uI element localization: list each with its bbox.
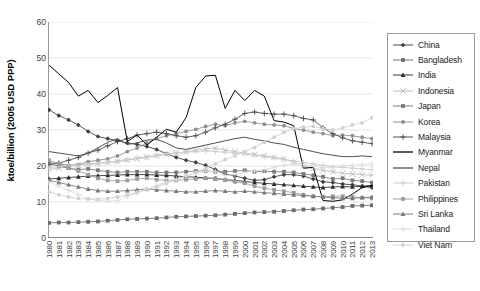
legend-swatch-icon: [392, 38, 414, 52]
y-axis-tick-60: 60: [20, 17, 46, 27]
x-axis-tick-1986: 1986: [104, 241, 113, 258]
x-axis-tick-1995: 1995: [192, 241, 201, 258]
legend-item-label: Korea: [418, 117, 440, 127]
x-axis-tick-2013: 2013: [368, 241, 377, 258]
legend-item-nepal[interactable]: Nepal: [388, 160, 474, 175]
x-axis-tick-1996: 1996: [202, 241, 211, 258]
legend-item-viet-nam[interactable]: Viet Nam: [388, 237, 474, 252]
x-axis-tick-2000: 2000: [241, 241, 250, 258]
x-axis-tick-1983: 1983: [74, 241, 83, 258]
x-axis-tick-1984: 1984: [84, 241, 93, 258]
x-axis-tick-2005: 2005: [290, 241, 299, 258]
legend-swatch-icon: [392, 84, 414, 98]
legend-item-japan[interactable]: Japan: [388, 99, 474, 114]
legend-item-korea[interactable]: Korea: [388, 114, 474, 129]
x-axis-tick-1987: 1987: [114, 241, 123, 258]
legend-item-label: China: [418, 40, 440, 50]
x-axis-tick-2010: 2010: [339, 241, 348, 258]
plot-area: [48, 22, 373, 238]
legend-swatch-icon: [392, 192, 414, 206]
legend-item-label: Thailand: [418, 224, 450, 234]
x-axis-tick-1993: 1993: [172, 241, 181, 258]
x-axis-tick-1981: 1981: [55, 241, 64, 258]
x-axis-tick-2004: 2004: [280, 241, 289, 258]
x-axis-tick-labels: 1980198119821983198419851986198719881989…: [48, 241, 373, 289]
x-axis-tick-2006: 2006: [299, 241, 308, 258]
x-axis-tick-2012: 2012: [358, 241, 367, 258]
legend-swatch-icon: [392, 238, 414, 252]
x-axis-tick-1989: 1989: [133, 241, 142, 258]
series-malaysia: [48, 109, 373, 167]
x-axis-tick-1999: 1999: [231, 241, 240, 258]
x-axis-tick-1997: 1997: [211, 241, 220, 258]
legend-swatch-icon: [392, 145, 414, 159]
legend-item-malaysia[interactable]: Malaysia: [388, 129, 474, 144]
x-axis-tick-1991: 1991: [153, 241, 162, 258]
legend-swatch-icon: [392, 53, 414, 67]
legend-item-myanmar[interactable]: Myanmar: [388, 145, 474, 160]
legend-item-china[interactable]: China: [388, 37, 474, 52]
x-axis-tick-2007: 2007: [309, 241, 318, 258]
legend-swatch-icon: [392, 222, 414, 236]
legend-item-thailand[interactable]: Thailand: [388, 222, 474, 237]
legend-item-label: Japan: [418, 101, 441, 111]
legend-item-label: Viet Nam: [418, 240, 452, 250]
legend-item-label: Bangladesh: [418, 55, 462, 65]
legend-swatch-icon: [392, 176, 414, 190]
legend-item-bangladesh[interactable]: Bangladesh: [388, 52, 474, 67]
x-axis-tick-1992: 1992: [162, 241, 171, 258]
chart-canvas: [48, 22, 373, 238]
legend-item-label: Indonesia: [418, 86, 454, 96]
chart-figure: ktoe/billion (2005 USD PPP) 010203040506…: [0, 0, 480, 291]
legend-item-label: Pakistan: [418, 178, 450, 188]
legend-swatch-icon: [392, 115, 414, 129]
legend-swatch-icon: [392, 99, 414, 113]
x-axis-tick-1994: 1994: [182, 241, 191, 258]
y-axis-tick-50: 50: [20, 53, 46, 63]
x-axis-tick-1990: 1990: [143, 241, 152, 258]
legend-item-sri-lanka[interactable]: Sri Lanka: [388, 206, 474, 221]
legend-item-label: India: [418, 70, 436, 80]
x-axis-tick-2002: 2002: [260, 241, 269, 258]
legend-item-label: Nepal: [418, 163, 440, 173]
x-axis-tick-2009: 2009: [329, 241, 338, 258]
legend-item-label: Sri Lanka: [418, 209, 453, 219]
legend-item-pakistan[interactable]: Pakistan: [388, 176, 474, 191]
chart-legend: ChinaBangladeshIndiaIndonesiaJapanKoreaM…: [387, 33, 475, 242]
series-bangladesh: [48, 203, 373, 224]
legend-item-indonesia[interactable]: Indonesia: [388, 83, 474, 98]
y-axis-tick-labels: 0102030405060: [18, 0, 46, 291]
y-axis-title-text: ktoe/billion (2005 USD PPP): [6, 59, 17, 181]
x-axis-tick-2008: 2008: [319, 241, 328, 258]
x-axis-tick-1982: 1982: [65, 241, 74, 258]
x-axis-tick-2001: 2001: [251, 241, 260, 258]
x-axis-tick-2003: 2003: [270, 241, 279, 258]
legend-item-philippines[interactable]: Philippines: [388, 191, 474, 206]
y-axis-tick-10: 10: [20, 197, 46, 207]
y-axis-tick-30: 30: [20, 125, 46, 135]
y-axis-tick-0: 0: [20, 233, 46, 243]
legend-item-label: Malaysia: [418, 132, 451, 142]
x-axis-tick-1980: 1980: [45, 241, 54, 258]
x-axis-tick-2011: 2011: [348, 241, 357, 257]
x-axis-tick-1988: 1988: [123, 241, 132, 258]
legend-swatch-icon: [392, 130, 414, 144]
legend-swatch-icon: [392, 207, 414, 221]
series-nepal: [49, 137, 372, 156]
legend-item-india[interactable]: India: [388, 68, 474, 83]
series-korea: [48, 119, 373, 167]
legend-swatch-icon: [392, 68, 414, 82]
legend-item-label: Philippines: [418, 194, 458, 204]
x-axis-tick-1985: 1985: [94, 241, 103, 258]
legend-item-label: Myanmar: [418, 147, 453, 157]
legend-swatch-icon: [392, 161, 414, 175]
y-axis-tick-40: 40: [20, 89, 46, 99]
x-axis-tick-1998: 1998: [221, 241, 230, 258]
y-axis-tick-20: 20: [20, 161, 46, 171]
